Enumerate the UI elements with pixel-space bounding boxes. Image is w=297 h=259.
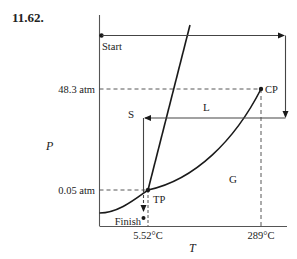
sublimation-curve bbox=[100, 190, 149, 213]
tick-p-triple: 0.05 atm bbox=[58, 185, 95, 196]
phase-diagram: 11.62. P T 48.3 atm 0.05 atm 5.52°C 289°… bbox=[0, 0, 297, 259]
x-axis-label: T bbox=[189, 241, 197, 255]
triple-point-label: TP bbox=[153, 194, 165, 205]
problem-number: 11.62. bbox=[12, 10, 44, 25]
fusion-line bbox=[148, 25, 190, 190]
tick-t-triple: 5.52°C bbox=[133, 230, 163, 241]
critical-point-marker bbox=[259, 87, 263, 91]
triple-point-marker bbox=[146, 188, 150, 192]
critical-point-label: CP bbox=[265, 84, 278, 95]
start-label: Start bbox=[102, 41, 122, 52]
tick-t-critical: 289°C bbox=[248, 230, 275, 241]
gas-region-label: G bbox=[229, 173, 237, 185]
y-axis-label: P bbox=[45, 139, 54, 153]
finish-point bbox=[142, 216, 146, 220]
liquid-region-label: L bbox=[203, 101, 210, 113]
solid-region-label: S bbox=[128, 108, 134, 120]
tick-p-critical: 48.3 atm bbox=[58, 84, 95, 95]
finish-label: Finish bbox=[115, 216, 142, 227]
